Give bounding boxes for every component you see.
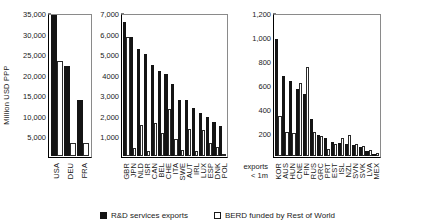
bar-group — [144, 16, 151, 156]
x-axis-label: DEU — [63, 161, 77, 195]
panel-mid-ytick-label: 2,000 — [100, 112, 119, 121]
chart-legend: R&D services exports BERD funded by Rest… — [0, 211, 435, 220]
bar — [192, 108, 195, 156]
bar-group — [358, 16, 365, 156]
bar — [70, 143, 76, 156]
bar — [376, 153, 379, 156]
legend-swatch-filled-icon — [100, 212, 107, 219]
panel-low-ytick-label: 800 — [258, 58, 271, 67]
annotation-line-2: < 1m — [222, 171, 268, 180]
panel-high-ytick-label: 10,000 — [23, 112, 46, 121]
y-axis-title: Million USD PPP — [0, 30, 12, 160]
bar-group — [192, 16, 199, 156]
legend-label-rd-services-exports: R&D services exports — [111, 211, 188, 220]
bar-group — [310, 16, 317, 156]
panel-low-ytick-label: 1,200 — [252, 10, 271, 19]
panel-high-ytick-label: 5,000 — [27, 133, 46, 142]
exports-threshold-annotation: exports < 1m — [222, 162, 268, 180]
x-axis-label: MEX — [373, 161, 380, 195]
panel-mid-ytick-label: 6,000 — [100, 30, 119, 39]
panel-high-ytick-label: 30,000 — [23, 30, 46, 39]
legend-item-rd-services-exports: R&D services exports — [100, 211, 188, 220]
panel-low-x-labels: KORAUSHUNCNEFINRUSGRCPRTESTISLNZLSVNSVKL… — [274, 161, 380, 195]
bar-group — [303, 16, 310, 156]
panel-mid-y-axis: 1,0002,0003,00040005,0006,0007,000 — [92, 14, 119, 158]
bar-group — [219, 16, 226, 156]
panel-high-x-labels: USADEUFRA — [49, 161, 91, 195]
panel-mid-ytick-label: 3,000 — [100, 92, 119, 101]
bar-group — [198, 16, 205, 156]
panel-mid-ytick-label: 5,000 — [100, 51, 119, 60]
bar-group — [372, 16, 379, 156]
bar-group — [365, 16, 372, 156]
panel-high-plot-area — [48, 14, 92, 158]
bar-group — [212, 16, 219, 156]
panel-high-y-axis: 5,00010,00015,00020,00025,00030,00035,00… — [14, 14, 46, 158]
panel-low-y-axis: 2004006008001,0001,200 — [248, 14, 271, 158]
bar-group — [351, 16, 358, 156]
bar-group — [324, 16, 331, 156]
panel-mid-ytick-label: 1,000 — [100, 133, 119, 142]
panel-mid-ytick-label: 4000 — [102, 71, 119, 80]
x-axis-label-text: FRA — [80, 163, 89, 178]
x-axis-label-text: USA — [52, 163, 61, 179]
bar — [144, 54, 147, 156]
bar-group — [130, 16, 137, 156]
bar — [222, 154, 225, 156]
y-axis-title-text: Million USD PPP — [2, 65, 11, 124]
panel-low-ytick-label: 200 — [258, 130, 271, 139]
panel-low-ytick-label: 400 — [258, 106, 271, 115]
x-axis-label-text: DEU — [66, 163, 75, 179]
panel-mid-ytick-label: 7,000 — [100, 10, 119, 19]
bar-group — [77, 16, 90, 156]
legend-swatch-hollow-icon — [214, 212, 221, 219]
bar-group — [282, 16, 289, 156]
bar-group — [289, 16, 296, 156]
bar-group — [331, 16, 338, 156]
bar-group — [337, 16, 344, 156]
bar — [219, 126, 222, 156]
chart-figure: Million USD PPP 5,00010,00015,00020,0002… — [0, 0, 435, 223]
panel-low-ytick-label: 600 — [258, 82, 271, 91]
x-axis-label: USA — [49, 161, 63, 195]
panel-low-plot-area — [273, 14, 381, 158]
bar-group — [171, 16, 178, 156]
bar-group — [137, 16, 144, 156]
bar-group — [63, 16, 76, 156]
bar — [83, 143, 89, 156]
panel-high-ytick-label: 35,000 — [23, 10, 46, 19]
bar-group — [164, 16, 171, 156]
bar — [178, 100, 181, 156]
bar-group — [185, 16, 192, 156]
panel-high-ytick-label: 25,000 — [23, 51, 46, 60]
panel-high-ytick-label: 20,000 — [23, 71, 46, 80]
bar-group — [275, 16, 282, 156]
panel-low-ytick-label: 1,000 — [252, 34, 271, 43]
bar-group — [205, 16, 212, 156]
x-axis-label: FRA — [77, 161, 91, 195]
legend-label-berd-rest-of-world: BERD funded by Rest of World — [225, 211, 335, 220]
annotation-line-1: exports — [222, 162, 268, 171]
bar-group — [50, 16, 63, 156]
bar — [57, 61, 63, 156]
bar-group — [317, 16, 324, 156]
bar-group — [178, 16, 185, 156]
bar-group — [344, 16, 351, 156]
bar-group — [123, 16, 130, 156]
x-axis-label-text: MEX — [372, 163, 381, 180]
bar-group — [150, 16, 157, 156]
panel-mid-plot-area — [121, 14, 228, 158]
legend-item-berd-rest-of-world: BERD funded by Rest of World — [214, 211, 335, 220]
bar-group — [157, 16, 164, 156]
panel-mid-x-labels: GBRJPNNLDISRCANBELCHEITASWEAUTIRLLUXESPD… — [122, 161, 227, 195]
bar-group — [296, 16, 303, 156]
bar — [130, 37, 133, 156]
panel-high-ytick-label: 15,000 — [23, 92, 46, 101]
